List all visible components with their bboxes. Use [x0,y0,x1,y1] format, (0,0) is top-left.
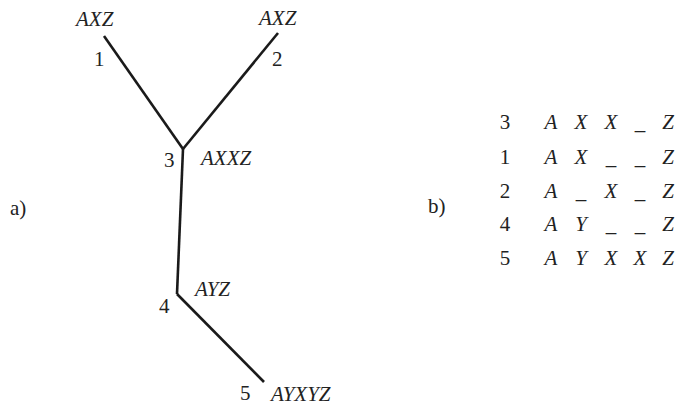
row-id: 3 [494,112,516,133]
row-cell: _ [570,181,592,202]
row-cell: Z [657,112,679,133]
row-cell: _ [600,147,622,168]
row-id: 4 [494,214,516,235]
row-cell: A [540,147,562,168]
row-cell: Z [657,181,679,202]
node-2-id: 2 [272,49,283,70]
row-cell: X [600,112,622,133]
row-cell: _ [629,214,651,235]
edge-3-4 [177,149,183,294]
row-cell: A [540,214,562,235]
row-id: 5 [494,248,516,269]
row-cell: X [570,147,592,168]
row-cell: _ [629,112,651,133]
row-cell: _ [629,147,651,168]
row-cell: Y [570,214,592,235]
edge-4-5 [177,294,264,382]
node-5-id: 5 [240,383,251,404]
node-3-id: 3 [164,150,175,171]
node-4-id: 4 [159,296,170,317]
row-cell: Z [657,147,679,168]
row-cell: Z [657,214,679,235]
row-cell: X [600,248,622,269]
row-cell: Y [570,248,592,269]
row-cell: A [540,112,562,133]
row-cell: A [540,248,562,269]
edge-2-3 [183,33,278,149]
row-cell: _ [629,181,651,202]
node-3-sequence: AXXZ [201,148,251,169]
row-cell: Z [657,248,679,269]
row-cell: _ [600,214,622,235]
edge-1-3 [104,36,183,149]
node-1-sequence: AXZ [76,9,113,30]
row-cell: X [629,248,651,269]
node-1-id: 1 [94,49,105,70]
panel-b-label: b) [428,196,446,217]
node-5-sequence: AYXYZ [271,384,331,405]
row-id: 1 [494,147,516,168]
node-4-sequence: AYZ [195,279,230,300]
row-id: 2 [494,181,516,202]
row-cell: A [540,181,562,202]
node-2-sequence: AXZ [259,8,296,29]
row-cell: X [600,181,622,202]
row-cell: X [570,112,592,133]
